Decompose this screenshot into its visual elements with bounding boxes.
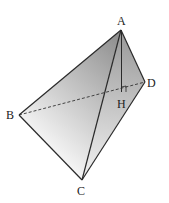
label-a: A xyxy=(117,14,126,28)
label-h: H xyxy=(117,97,126,111)
label-c: C xyxy=(77,184,85,198)
label-d: D xyxy=(147,76,156,90)
tetrahedron-diagram: A B C D H xyxy=(0,0,169,203)
label-b: B xyxy=(6,108,14,122)
